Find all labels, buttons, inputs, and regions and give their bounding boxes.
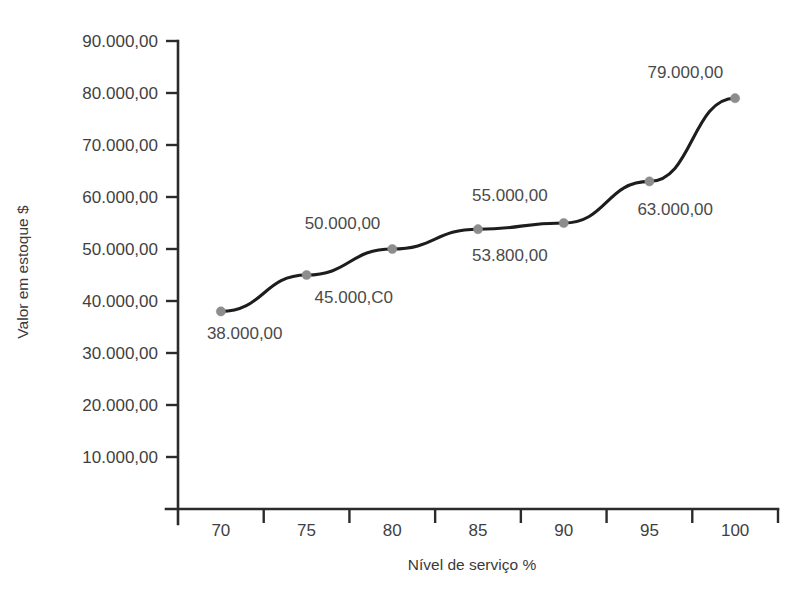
x-tick-label: 75 (297, 521, 316, 540)
x-tick-label: 70 (211, 521, 230, 540)
x-axis-title: Nível de serviço % (408, 556, 537, 573)
x-axis-tick-labels: 707580859095100 (211, 521, 749, 540)
data-point-label: 38.000,00 (207, 324, 283, 343)
data-point-label: 53.800,00 (472, 246, 548, 265)
x-tick-label: 85 (469, 521, 488, 540)
series-data-labels: 38.000,0045.000,C050.000,0053.800,0055.0… (207, 63, 723, 343)
data-point-marker (388, 244, 397, 253)
y-tick-label: 70.000,00 (82, 136, 158, 155)
data-point-label: 55.000,00 (472, 186, 548, 205)
data-point-label: 63.000,00 (637, 200, 713, 219)
data-point-label: 50.000,00 (305, 214, 381, 233)
line-chart: 10.000,0020.000,0030.000,0040.000,0050.0… (0, 0, 798, 594)
y-axis-tick-labels: 10.000,0020.000,0030.000,0040.000,0050.0… (82, 32, 158, 467)
y-tick-label: 80.000,00 (82, 84, 158, 103)
chart-container: 10.000,0020.000,0030.000,0040.000,0050.0… (0, 0, 798, 594)
data-point-marker (559, 218, 568, 227)
data-point-label: 79.000,00 (647, 63, 723, 82)
data-point-marker (216, 307, 225, 316)
y-tick-label: 30.000,00 (82, 344, 158, 363)
y-tick-label: 90.000,00 (82, 32, 158, 51)
y-axis-ticks (166, 41, 178, 457)
data-point-label: 45.000,C0 (315, 288, 393, 307)
x-axis-ticks (264, 509, 778, 523)
y-tick-label: 40.000,00 (82, 292, 158, 311)
data-point-marker (302, 270, 311, 279)
y-tick-label: 60.000,00 (82, 188, 158, 207)
y-axis-title: Valor em estoque $ (14, 205, 31, 339)
x-tick-label: 100 (721, 521, 749, 540)
y-tick-label: 20.000,00 (82, 396, 158, 415)
y-tick-label: 10.000,00 (82, 448, 158, 467)
x-tick-label: 95 (640, 521, 659, 540)
y-tick-label: 50.000,00 (82, 240, 158, 259)
data-point-marker (473, 225, 482, 234)
data-point-marker (731, 94, 740, 103)
x-tick-label: 90 (554, 521, 573, 540)
data-point-marker (645, 177, 654, 186)
x-tick-label: 80 (383, 521, 402, 540)
